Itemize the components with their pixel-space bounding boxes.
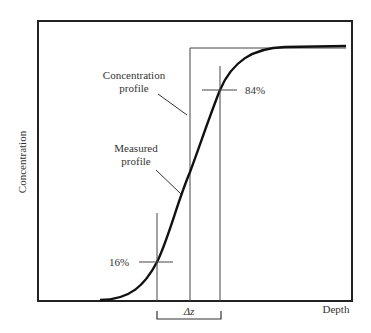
concentration-profile-label-line2: profile (119, 82, 148, 94)
p84-label: 84% (245, 84, 265, 96)
measured-profile-label-line2: profile (121, 155, 150, 167)
delta-z-label: Δz (183, 305, 195, 317)
x-axis-label: Depth (323, 303, 350, 315)
measured-profile-leader (156, 170, 181, 194)
y-axis-label: Concentration (16, 130, 28, 193)
depth-profile-diagram: Concentration profile Measured profile 8… (0, 0, 371, 333)
concentration-profile-label-line1: Concentration (103, 69, 166, 81)
concentration-profile-leader (158, 94, 187, 115)
p16-label: 16% (109, 256, 129, 268)
concentration-step-profile (190, 48, 346, 301)
measured-profile-label-line1: Measured (114, 142, 158, 154)
